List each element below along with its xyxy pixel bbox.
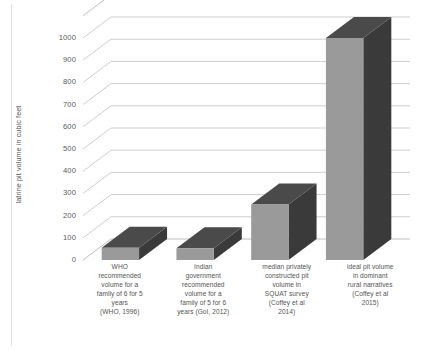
bar-4 [326,17,391,260]
category-label-line: WHO [83,262,157,271]
category-label-line: SQUAT survey [250,289,324,298]
category-label-line: volume for a [83,280,157,289]
gridline-top-border [83,0,410,16]
category-label-line: rural narratives [334,280,408,289]
bar-front-face [326,38,363,260]
bar-2 [176,227,241,260]
bar-3 [251,184,316,261]
category-label-line: Indian [167,262,241,271]
bar-front-face [251,205,288,261]
category-label-line: government [167,271,241,280]
category-label-line: family of 5 for 6 [167,298,241,307]
category-label-line: median privately [250,262,324,271]
bar-1 [102,227,167,260]
category-label-line: (Coffey et al [334,289,408,298]
category-label-line: volume for a [167,289,241,298]
category-label-line: in dominant [334,271,408,280]
category-label-line: 2014) [250,307,324,316]
x-axis-category-labels: WHOrecommendedvolume for afamily of 6 fo… [78,262,412,317]
category-label-line: constructed pit [250,271,324,280]
category-label-line: (WHO, 1996) [83,307,157,316]
category-label-line: years (GoI, 2012) [167,307,241,316]
category-label-line: years [83,298,157,307]
bar-side-face [363,17,391,260]
category-label-line: family of 6 for 5 [83,289,157,298]
category-label-line: recommended [167,280,241,289]
category-label-line: ideal pit volume [334,262,408,271]
category-label-line: recommended [83,271,157,280]
category-label-3: median privatelyconstructed pitvolume in… [245,262,329,317]
bar-front-face [102,248,139,260]
category-label-line: (Coffey et al [250,298,324,307]
bar-front-face [176,248,213,260]
category-label-4: ideal pit volumein dominantrural narrati… [329,262,413,317]
category-label-2: Indiangovernmentrecommendedvolume for af… [162,262,246,317]
category-label-line: volume in [250,280,324,289]
bar-chart: latrine pit volume in cubic feet 0100200… [0,0,422,350]
category-label-1: WHOrecommendedvolume for afamily of 6 fo… [78,262,162,317]
bar-series [102,17,392,260]
category-label-line: 2015) [334,298,408,307]
